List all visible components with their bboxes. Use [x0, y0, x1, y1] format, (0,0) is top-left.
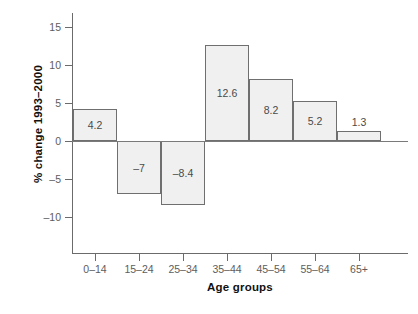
y-tick-mark [65, 65, 72, 66]
x-tick-mark [183, 254, 184, 261]
x-tick-mark [95, 254, 96, 261]
y-tick-mark [65, 217, 72, 218]
x-axis-title: Age groups [72, 281, 408, 293]
y-tick-label: –5 [21, 174, 61, 185]
y-tick-label: 0 [21, 136, 61, 147]
x-tick-label: 65+ [329, 264, 389, 275]
y-tick-label: –10 [21, 212, 61, 223]
bar-value-label: 1.3 [337, 117, 381, 128]
y-tick-label: 10 [21, 60, 61, 71]
y-axis-title: % change 1993–2000 [32, 14, 44, 234]
bar-value-label: 5.2 [293, 116, 337, 127]
y-tick-mark [65, 27, 72, 28]
bar-chart: % change 1993–2000 Age groups 151050–5–1… [0, 0, 418, 314]
bar [337, 131, 381, 141]
x-tick-mark [359, 254, 360, 261]
zero-baseline [72, 141, 408, 142]
x-tick-mark [139, 254, 140, 261]
y-tick-mark [65, 141, 72, 142]
bar-value-label: 4.2 [73, 120, 117, 131]
y-tick-mark [65, 179, 72, 180]
bar-value-label: –8.4 [161, 168, 205, 179]
y-tick-label: 15 [21, 22, 61, 33]
y-tick-label: 5 [21, 98, 61, 109]
x-tick-mark [315, 254, 316, 261]
x-axis-line [72, 253, 408, 254]
y-tick-mark [65, 103, 72, 104]
x-tick-mark [227, 254, 228, 261]
bar-value-label: 12.6 [205, 88, 249, 99]
bar-value-label: –7 [117, 163, 161, 174]
bar-value-label: 8.2 [249, 105, 293, 116]
x-tick-mark [271, 254, 272, 261]
